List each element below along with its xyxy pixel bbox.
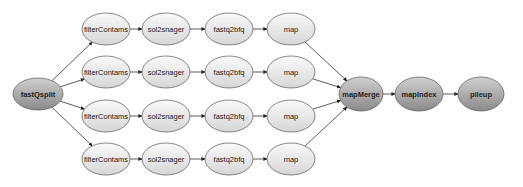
node-fastq2bfq[interactable]: fastq2bfq xyxy=(205,100,253,132)
node-label: filterContams xyxy=(84,112,128,121)
node-sol2snager[interactable]: sol2snager xyxy=(142,13,190,45)
edge-fastQsplit-to-fc3 xyxy=(60,101,84,109)
node-label: sol2snager xyxy=(148,112,185,121)
node-filterContams[interactable]: filterContams xyxy=(82,56,130,88)
node-fastQsplit[interactable]: fastQsplit xyxy=(13,78,63,110)
edge-fastQsplit-to-fc2 xyxy=(60,79,84,87)
node-label: filterContams xyxy=(84,68,128,77)
node-filterContams[interactable]: filterContams xyxy=(82,143,130,175)
edge-mp3-to-mapMerge xyxy=(313,100,341,109)
node-label: sol2snager xyxy=(148,25,185,34)
node-label: map xyxy=(284,68,299,77)
node-mapIndex[interactable]: mapIndex xyxy=(395,77,443,111)
node-label: map xyxy=(284,112,299,121)
node-map[interactable]: map xyxy=(267,100,315,132)
nodes-layer: fastQsplitfilterContamsfilterContamsfilt… xyxy=(13,13,504,175)
node-label: fastQsplit xyxy=(21,90,56,99)
node-label: fastq2bfq xyxy=(214,112,245,121)
node-label: filterContams xyxy=(84,25,128,34)
node-map[interactable]: map xyxy=(267,13,315,45)
node-map[interactable]: map xyxy=(267,56,315,88)
node-sol2snager[interactable]: sol2snager xyxy=(142,56,190,88)
node-label: sol2snager xyxy=(148,68,185,77)
node-label: map xyxy=(284,155,299,164)
node-sol2snager[interactable]: sol2snager xyxy=(142,143,190,175)
node-pileup[interactable]: pileup xyxy=(458,77,504,111)
node-label: fastq2bfq xyxy=(214,25,245,34)
workflow-diagram: fastQsplitfilterContamsfilterContamsfilt… xyxy=(0,0,523,187)
node-label: mapMerge xyxy=(342,90,380,99)
node-label: mapIndex xyxy=(401,90,437,99)
node-filterContams[interactable]: filterContams xyxy=(82,100,130,132)
node-label: map xyxy=(284,25,299,34)
node-map[interactable]: map xyxy=(267,143,315,175)
node-label: fastq2bfq xyxy=(214,155,245,164)
node-label: fastq2bfq xyxy=(214,68,245,77)
node-mapMerge[interactable]: mapMerge xyxy=(339,77,383,111)
node-filterContams[interactable]: filterContams xyxy=(82,13,130,45)
edge-mp2-to-mapMerge xyxy=(313,79,341,88)
node-fastq2bfq[interactable]: fastq2bfq xyxy=(205,56,253,88)
node-fastq2bfq[interactable]: fastq2bfq xyxy=(205,13,253,45)
node-label: filterContams xyxy=(84,155,128,164)
node-label: sol2snager xyxy=(148,155,185,164)
node-sol2snager[interactable]: sol2snager xyxy=(142,100,190,132)
node-fastq2bfq[interactable]: fastq2bfq xyxy=(205,143,253,175)
node-label: pileup xyxy=(470,90,493,99)
